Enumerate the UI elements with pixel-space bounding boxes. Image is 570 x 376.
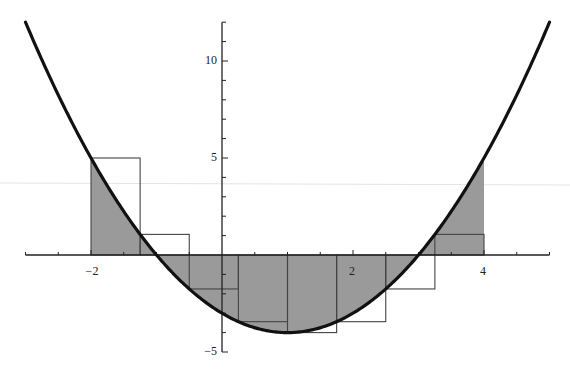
riemann-sum-chart: −2 2 4 10 5 −5 xyxy=(0,0,570,376)
y-tick-label-5: 5 xyxy=(211,150,217,164)
x-tick-label-4: 4 xyxy=(480,264,486,278)
x-tick-label-neg2: −2 xyxy=(86,264,99,278)
scan-artifact-line xyxy=(0,183,570,185)
x-tick-label-2: 2 xyxy=(349,264,355,278)
y-tick-label-10: 10 xyxy=(205,53,217,67)
y-tick-label-neg5: −5 xyxy=(204,344,217,358)
